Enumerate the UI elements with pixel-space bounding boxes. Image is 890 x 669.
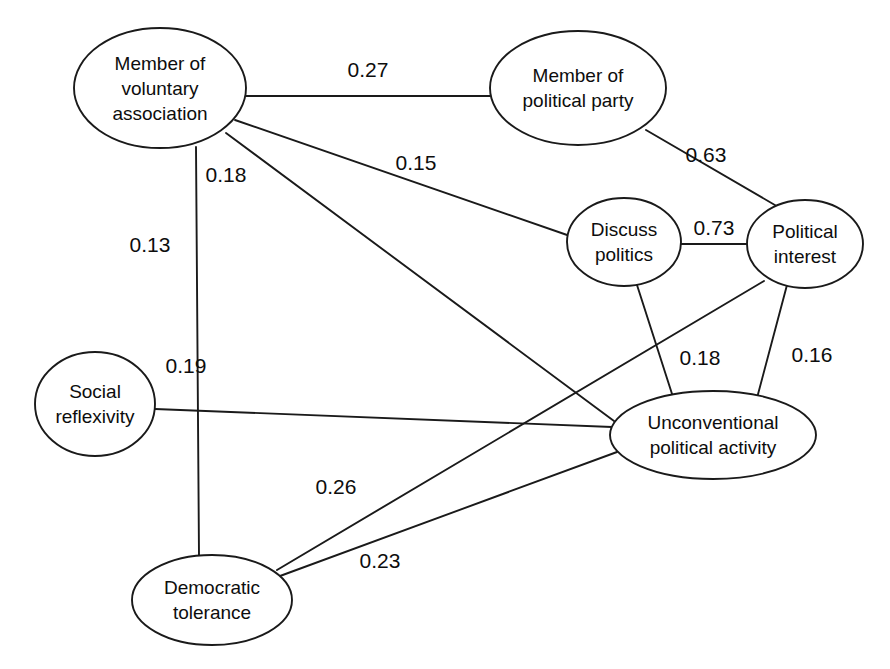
nodes-group [35,28,863,645]
edge-weight-label: 0.73 [694,216,735,240]
edge-weight-label: 0.19 [166,354,207,378]
node-democratic_tolerance[interactable] [132,555,292,645]
edge-political_interest-to-unconventional_political_activity [757,285,787,398]
edges-group [155,96,787,576]
edge-weight-label: 0.18 [206,163,247,187]
edge-weight-label: 0.18 [680,346,721,370]
edge-democratic_tolerance-to-unconventional_political_activity [280,452,617,576]
edge-weight-label: 0.26 [316,475,357,499]
edge-political_party-to-political_interest [646,130,780,208]
edge-weight-label: 0.15 [396,151,437,175]
node-social_reflexivity[interactable] [35,352,155,456]
edge-weight-label: 0.27 [348,58,389,82]
edge-voluntary_association-to-democratic_tolerance [196,147,199,556]
edge-weight-label: 0.16 [792,343,833,367]
edge-voluntary_association-to-unconventional_political_activity [226,133,614,421]
edge-weight-label: 0.13 [130,233,171,257]
node-voluntary_association[interactable] [74,28,246,148]
edge-discuss_politics-to-unconventional_political_activity [637,285,673,397]
node-unconventional_political_activity[interactable] [610,391,816,479]
node-discuss_politics[interactable] [567,198,681,286]
network-diagram-figure: Member ofvoluntaryassociationMember ofpo… [0,0,890,669]
network-canvas [0,0,890,669]
node-political_party[interactable] [490,31,666,145]
edge-weight-label: 0.23 [360,549,401,573]
edge-weight-label: 0.63 [686,143,727,167]
node-political_interest[interactable] [747,200,863,288]
